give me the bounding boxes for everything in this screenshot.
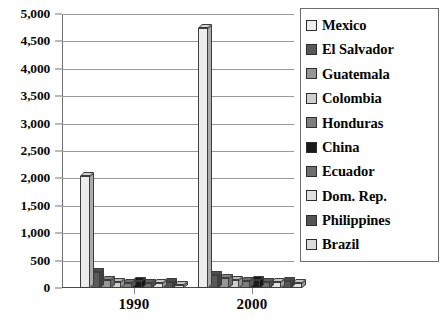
legend-item[interactable]: China — [306, 135, 435, 159]
legend-swatch-icon — [306, 68, 317, 79]
legend-item[interactable]: Honduras — [306, 111, 435, 135]
legend-item[interactable]: Philippines — [306, 208, 435, 232]
legend-item-label: Dom. Rep. — [322, 189, 387, 204]
bar-side-face — [208, 24, 212, 288]
y-axis-tick — [55, 68, 62, 69]
bar — [198, 28, 208, 288]
y-axis-tick-label: 3,000 — [21, 117, 50, 131]
y-axis-tick-label: 1,500 — [21, 199, 50, 213]
y-axis-tick — [55, 41, 62, 42]
y-axis-tick — [55, 233, 62, 234]
legend-item-label: Colombia — [322, 91, 382, 106]
legend-item-label: Philippines — [322, 213, 390, 228]
y-axis-tick — [55, 205, 62, 206]
legend-swatch-icon — [306, 20, 317, 31]
y-axis-tick-label: 2,000 — [21, 172, 50, 186]
legend-item[interactable]: Ecuador — [306, 159, 435, 183]
legend-swatch-icon — [306, 117, 317, 128]
legend-item[interactable]: El Salvador — [306, 37, 435, 61]
y-axis-tick — [55, 123, 62, 124]
legend-swatch-icon — [306, 239, 317, 250]
y-axis-tick — [55, 178, 62, 179]
y-axis-tick-label: 4,500 — [21, 35, 50, 49]
legend-item[interactable]: Brazil — [306, 233, 435, 257]
legend-item-label: Guatemala — [322, 67, 390, 82]
legend-swatch-icon — [306, 215, 317, 226]
y-axis-tick — [55, 14, 62, 15]
bar-front-face — [80, 176, 90, 288]
legend-swatch-icon — [306, 44, 317, 55]
y-axis-tick-label: 1,000 — [21, 226, 50, 240]
legend-item-label: Brazil — [322, 237, 359, 252]
legend-item[interactable]: Guatemala — [306, 62, 435, 86]
legend-item-label: Honduras — [322, 116, 383, 131]
y-axis-tick — [55, 96, 62, 97]
y-axis-tick — [55, 151, 62, 152]
legend-item-label: China — [322, 140, 359, 155]
legend-swatch-icon — [306, 166, 317, 177]
y-axis-tick-label: 0 — [43, 281, 50, 295]
legend-item-label: Ecuador — [322, 164, 374, 179]
y-axis-tick-label: 4,000 — [21, 62, 50, 76]
x-axis-category-label: 1990 — [89, 296, 179, 313]
legend-item[interactable]: Mexico — [306, 13, 435, 37]
y-axis-tick-label: 2,500 — [21, 144, 50, 158]
plot-area — [62, 14, 294, 288]
y-axis-tick-label: 5,000 — [21, 7, 50, 21]
legend-swatch-icon — [306, 190, 317, 201]
legend-item-label: El Salvador — [322, 42, 394, 57]
bar-front-face — [198, 28, 208, 288]
legend-item[interactable]: Dom. Rep. — [306, 184, 435, 208]
y-axis-tick — [55, 288, 62, 289]
y-axis-labels: 05001,0001,5002,0002,5003,0003,5004,0004… — [0, 14, 58, 288]
legend-item[interactable]: Colombia — [306, 86, 435, 110]
x-axis-tick — [134, 288, 135, 294]
legend-item-label: Mexico — [322, 18, 367, 33]
legend-swatch-icon — [306, 142, 317, 153]
legend-swatch-icon — [306, 93, 317, 104]
x-axis-category-label: 2000 — [207, 296, 297, 313]
legend: MexicoEl SalvadorGuatemalaColombiaHondur… — [300, 8, 439, 262]
bar-group — [198, 14, 302, 288]
bar-group — [80, 14, 184, 288]
x-axis-tick — [252, 288, 253, 294]
y-axis-tick-label: 3,500 — [21, 89, 50, 103]
bar-chart-figure: 05001,0001,5002,0002,5003,0003,5004,0004… — [0, 0, 445, 335]
bar — [80, 176, 90, 288]
y-axis-tick — [55, 260, 62, 261]
bar-side-face — [90, 172, 94, 288]
y-axis-tick-label: 500 — [30, 254, 50, 268]
